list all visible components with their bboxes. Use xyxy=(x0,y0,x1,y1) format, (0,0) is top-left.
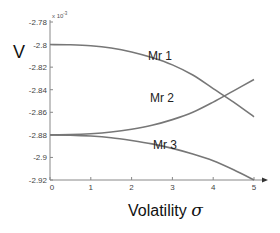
series-line-2 xyxy=(50,80,254,135)
x-tick-label: 1 xyxy=(89,183,94,192)
x-tick-label: 5 xyxy=(252,183,257,192)
y-tick-label: -2.88 xyxy=(29,131,48,140)
y-tick-label: -2.82 xyxy=(29,63,48,72)
x-axis-arrow-icon xyxy=(262,178,268,183)
y-tick-label: -2.78 xyxy=(29,18,48,27)
x-tick-label: 2 xyxy=(129,183,134,192)
series-label-1: Mr 1 xyxy=(148,49,172,63)
y-tick-label: -2.86 xyxy=(29,108,48,117)
x-tick-label: 0 xyxy=(50,183,55,192)
chart: -2.78-2.8-2.82-2.84-2.86-2.88-2.9-2.9201… xyxy=(0,0,280,233)
series-label-2: Mr 2 xyxy=(150,91,174,105)
y-tick-label: -2.8 xyxy=(33,41,47,50)
series-line-3 xyxy=(50,135,254,180)
y-tick-label: -2.84 xyxy=(29,86,48,95)
series-label-3: Mr 3 xyxy=(153,138,177,152)
y-tick-label: -2.92 xyxy=(29,176,48,185)
y-tick-label: -2.9 xyxy=(33,153,47,162)
x-tick-label: 3 xyxy=(170,183,175,192)
x-tick-label: 4 xyxy=(211,183,216,192)
y-axis-label: V xyxy=(13,42,25,62)
series-lines xyxy=(50,45,254,180)
y-exponent-label: x 10-3 xyxy=(52,11,68,19)
x-axis-label: Volatility σ xyxy=(128,200,203,220)
